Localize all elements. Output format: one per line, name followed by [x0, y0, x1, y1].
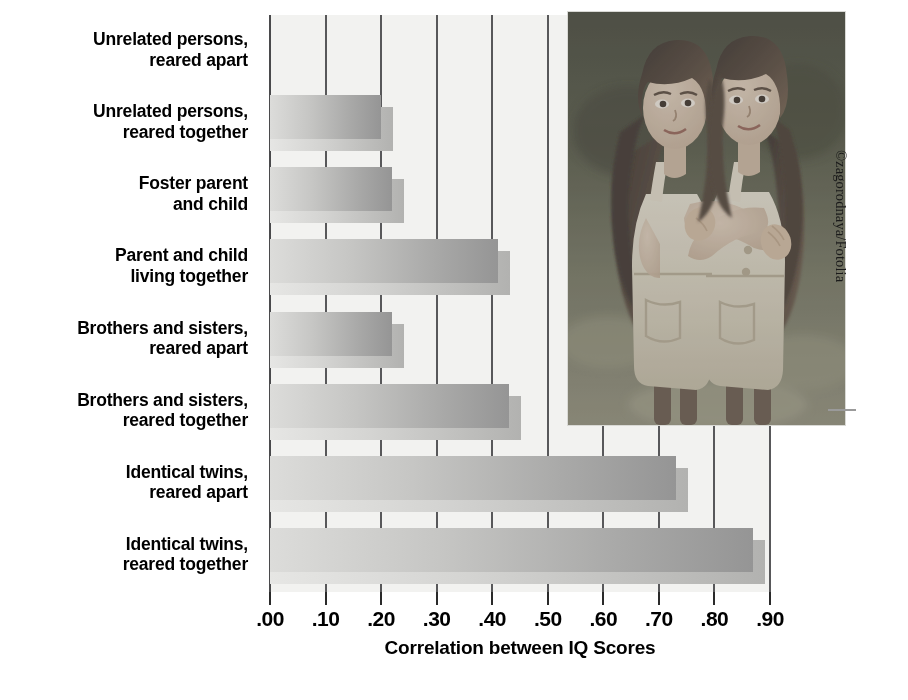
category-label-line2: reared apart	[0, 482, 248, 502]
x-axis-title: Correlation between IQ Scores	[270, 637, 770, 659]
category-label-line2: and child	[0, 194, 248, 214]
category-label: Foster parentand child	[0, 173, 248, 214]
category-label: Brothers and sisters,reared together	[0, 390, 248, 431]
x-tick-label: .90	[740, 607, 800, 631]
x-tick	[491, 592, 493, 605]
category-label-line2: reared together	[0, 410, 248, 430]
category-label-line1: Foster parent	[139, 173, 248, 193]
category-label-line2: reared together	[0, 122, 248, 142]
category-label-line1: Unrelated persons,	[93, 29, 248, 49]
x-tick	[547, 592, 549, 605]
x-tick	[325, 592, 327, 605]
bar-face	[270, 528, 753, 572]
category-label-line2: living together	[0, 266, 248, 286]
x-tick	[713, 592, 715, 605]
photo-credit: ©zagorodnaya/Fotolia	[832, 150, 849, 420]
x-tick-label: .20	[351, 607, 411, 631]
bar-face	[270, 456, 676, 500]
category-label-line1: Identical twins,	[126, 462, 248, 482]
bar-face	[270, 239, 498, 283]
category-label-column: Unrelated persons,reared apartUnrelated …	[0, 15, 258, 592]
bar-face	[270, 384, 509, 428]
category-label-line2: reared apart	[0, 338, 248, 358]
category-label: Identical twins,reared apart	[0, 462, 248, 503]
x-tick	[769, 592, 771, 605]
bar-face	[270, 312, 392, 356]
category-label-line2: reared together	[0, 554, 248, 574]
x-tick-label: .50	[518, 607, 578, 631]
x-tick	[436, 592, 438, 605]
x-axis-tick-labels: .00.10.20.30.40.50.60.70.80.90	[0, 607, 908, 635]
twins-photograph	[568, 12, 845, 425]
x-tick	[380, 592, 382, 605]
bar-face	[270, 167, 392, 211]
x-tick-label: .70	[629, 607, 689, 631]
category-label: Brothers and sisters,reared apart	[0, 318, 248, 359]
x-tick-label: .80	[684, 607, 744, 631]
category-label-line1: Identical twins,	[126, 534, 248, 554]
x-axis-ticks	[270, 592, 770, 606]
category-label-line1: Brothers and sisters,	[77, 390, 248, 410]
category-label: Unrelated persons,reared together	[0, 101, 248, 142]
bar-face	[270, 95, 381, 139]
category-label-line1: Unrelated persons,	[93, 101, 248, 121]
x-tick	[269, 592, 271, 605]
x-tick-label: .30	[407, 607, 467, 631]
category-label: Identical twins,reared together	[0, 534, 248, 575]
category-label-line1: Brothers and sisters,	[77, 318, 248, 338]
x-tick-label: .60	[573, 607, 633, 631]
x-tick	[602, 592, 604, 605]
category-label-line2: reared apart	[0, 50, 248, 70]
twins-photo-illustration	[568, 12, 845, 425]
chart-figure: Unrelated persons,reared apartUnrelated …	[0, 0, 908, 700]
category-label-line1: Parent and child	[115, 245, 248, 265]
category-label: Parent and childliving together	[0, 245, 248, 286]
x-tick-label: .00	[240, 607, 300, 631]
x-tick-label: .40	[462, 607, 522, 631]
x-tick	[658, 592, 660, 605]
x-tick-label: .10	[296, 607, 356, 631]
category-label: Unrelated persons,reared apart	[0, 29, 248, 70]
